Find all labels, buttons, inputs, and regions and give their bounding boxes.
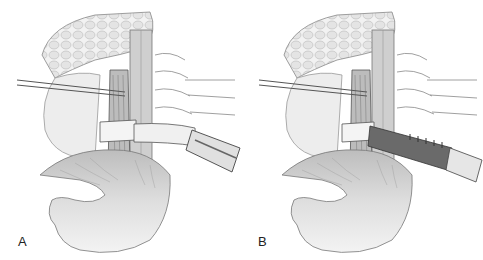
anatomy-illustration-b bbox=[242, 0, 483, 260]
anatomy-illustration-a bbox=[0, 0, 241, 260]
illustration-panel-a: A bbox=[0, 0, 241, 260]
illustration-panel-b: B bbox=[242, 0, 483, 260]
panel-label-b: B bbox=[258, 234, 267, 249]
panel-label-a: A bbox=[18, 234, 27, 249]
